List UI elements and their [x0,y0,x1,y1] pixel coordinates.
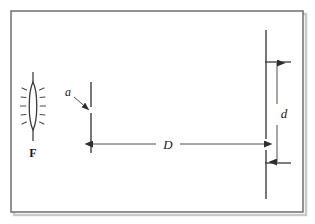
source-bulb-icon [29,82,37,130]
source-label-F: F [29,146,36,160]
diffraction-figure: F a D d [0,0,315,224]
diagram-canvas: F a D d [0,0,315,224]
distance-label-D: D [162,137,173,152]
figure-border [11,11,303,212]
fringe-label-d: d [281,106,288,121]
slit-label-a: a [65,85,71,99]
